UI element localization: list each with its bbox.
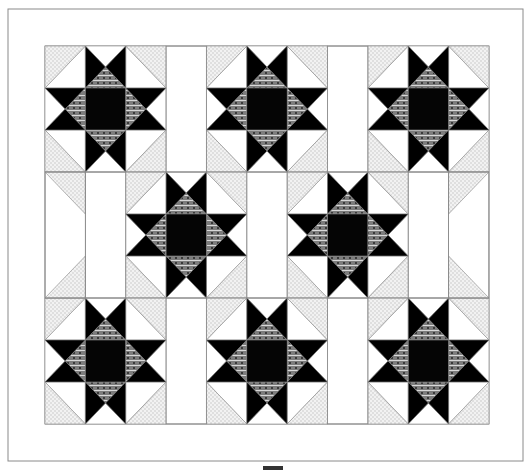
- star-block: [45, 46, 166, 172]
- scroll-indicator[interactable]: [263, 466, 283, 470]
- star-block: [45, 298, 166, 424]
- star-block: [206, 46, 327, 172]
- star-center-square: [408, 88, 448, 130]
- star-block: [287, 172, 408, 298]
- star-center-square: [85, 340, 125, 382]
- star-block: [206, 298, 327, 424]
- star-center-square: [408, 340, 448, 382]
- star-center-square: [85, 88, 125, 130]
- star-center-square: [166, 214, 206, 256]
- star-block: [126, 172, 247, 298]
- quilt-canvas: [0, 0, 532, 470]
- star-block: [368, 298, 489, 424]
- star-center-square: [247, 340, 287, 382]
- star-center-square: [247, 88, 287, 130]
- star-block: [368, 46, 489, 172]
- star-center-square: [328, 214, 368, 256]
